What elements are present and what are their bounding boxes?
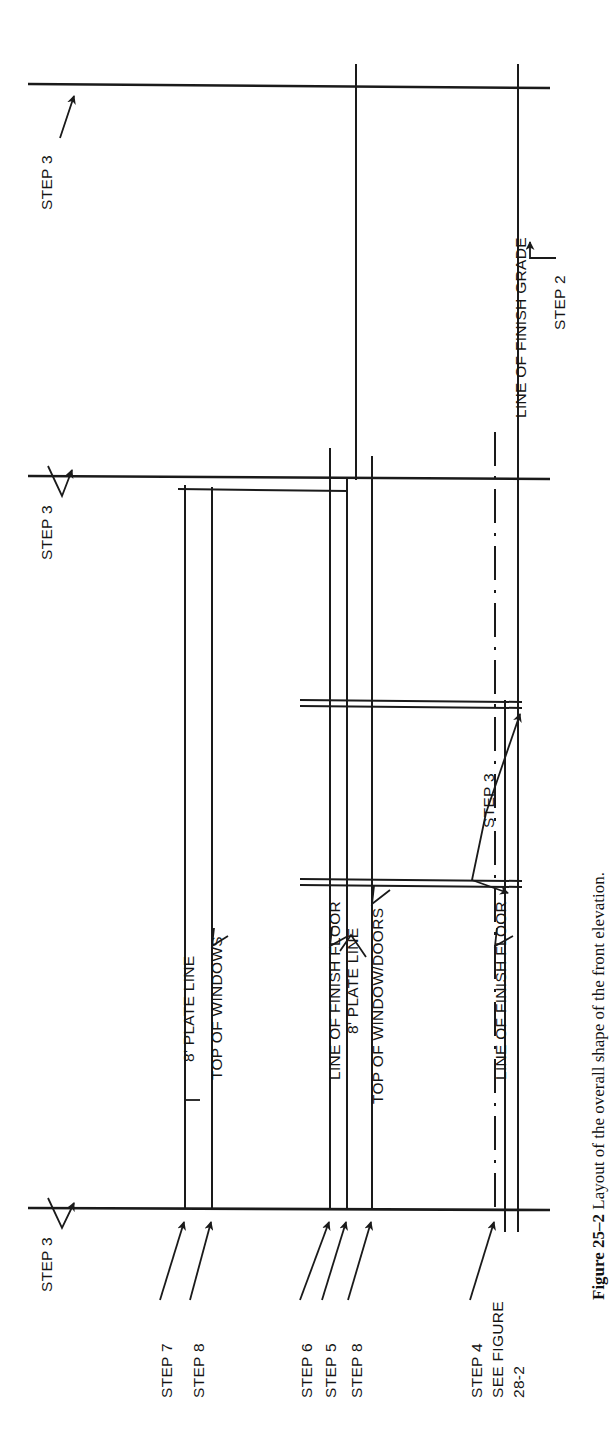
label-step-7: STEP 7 <box>158 1343 176 1398</box>
figure-caption: Figure 25–2 Layout of the overall shape … <box>589 872 609 1300</box>
label-step-3-bottom: STEP 3 <box>38 1237 56 1292</box>
label-top-of-window-doors: TOP OF WINDOW/DOORS <box>369 908 387 1104</box>
figure-number: Figure 25–2 <box>589 1214 608 1300</box>
label-step-8-a: STEP 8 <box>190 1343 208 1398</box>
leader-step3-top <box>60 96 74 138</box>
callout-arrows-bottom <box>160 1222 494 1300</box>
label-plate-line-upper: 8' PLATE LINE <box>180 955 198 1062</box>
label-step-2: STEP 2 <box>551 275 569 330</box>
label-step-5: STEP 5 <box>322 1343 340 1398</box>
label-finish-floor-upper: LINE OF FINISH FLOOR <box>326 901 344 1080</box>
label-plate-line-lower: 8' PLATE LINE <box>344 927 362 1034</box>
ridge-line-group <box>28 84 550 88</box>
figure-caption-text: Layout of the overall shape of the front… <box>589 872 608 1210</box>
eave-line-group <box>28 476 550 491</box>
leader-step3-middle <box>48 466 72 496</box>
label-step-6: STEP 6 <box>298 1343 316 1398</box>
label-see-figure: SEE FIGURE <box>489 1301 507 1398</box>
label-step-4: STEP 4 <box>468 1343 486 1398</box>
label-step-3-window: STEP 3 <box>480 773 498 828</box>
label-step-8-b: STEP 8 <box>348 1343 366 1398</box>
label-top-of-windows: TOP OF WINDOWS <box>208 936 226 1080</box>
label-step-3-top: STEP 3 <box>38 155 56 210</box>
label-see-figure-number: 28-2 <box>510 1366 528 1398</box>
label-finish-floor-lower: LINE OF FINISH FLOOR <box>492 901 510 1080</box>
leader-step2 <box>530 242 556 258</box>
label-line-of-finish-grade: LINE OF FINISH GRADE <box>512 237 530 418</box>
label-step-3-middle: STEP 3 <box>38 505 56 560</box>
leader-step3-bottom <box>48 1198 74 1228</box>
leader-top-window-doors <box>372 886 390 904</box>
base-line-group <box>28 1208 550 1210</box>
